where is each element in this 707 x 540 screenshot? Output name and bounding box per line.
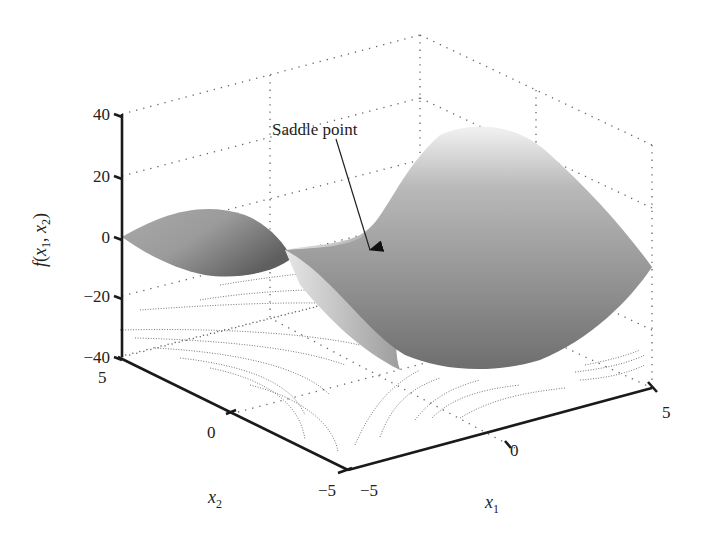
svg-text:0: 0 [510,441,519,460]
z-tick-labels: 40 20 0 −20 −40 [83,105,110,367]
svg-text:0: 0 [102,228,111,247]
svg-text:−5: −5 [360,481,378,500]
svg-text:5: 5 [98,368,107,387]
svg-text:40: 40 [93,105,110,124]
svg-text:20: 20 [93,167,110,186]
surface-left-lobe [122,209,292,277]
annotation-arrow [336,139,370,250]
z-axis-label: f(x1, x2) [30,213,53,267]
svg-text:−5: −5 [318,481,336,500]
x1-tick-labels: −5 0 5 [360,403,671,500]
x1-axis-label: x1 [484,492,499,516]
x1-axis [348,388,652,470]
surface-right-lobe [285,127,652,369]
saddle-point-annotation: Saddle point [272,120,358,139]
x2-tick-labels: 5 0 −5 [98,368,336,500]
svg-text:−40: −40 [83,348,110,367]
x2-axis-label: x2 [207,487,222,511]
svg-text:−20: −20 [83,287,110,306]
svg-text:0: 0 [207,423,216,442]
saddle-surface-plot: 40 20 0 −20 −40 5 0 −5 −5 0 5 f(x1, x2) … [0,0,707,540]
svg-text:5: 5 [662,403,671,422]
